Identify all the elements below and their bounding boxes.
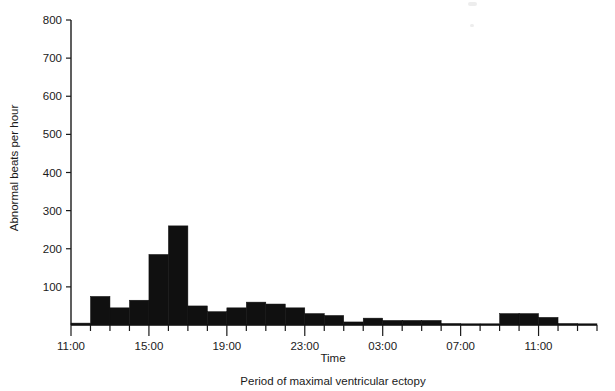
- bar: [578, 324, 597, 325]
- x-tick-label: 19:00: [212, 340, 241, 352]
- bar: [149, 254, 168, 325]
- scan-artifact: [468, 2, 477, 6]
- bar: [461, 324, 480, 325]
- x-tick-label: 07:00: [446, 340, 475, 352]
- bar: [207, 312, 226, 325]
- bar: [188, 306, 207, 325]
- bar: [558, 323, 577, 325]
- bar: [500, 314, 519, 325]
- y-tick-label: 800: [43, 14, 62, 26]
- bar: [324, 315, 343, 325]
- x-axis: 11:0015:0019:0023:0003:0007:0011:00: [57, 325, 597, 352]
- y-tick-label: 100: [43, 281, 62, 293]
- x-tick-label: 23:00: [290, 340, 319, 352]
- bar: [227, 308, 246, 325]
- x-axis-title: Time: [320, 352, 345, 364]
- x-tick-label: 11:00: [57, 340, 85, 352]
- y-tick-label: 400: [43, 167, 62, 179]
- bar: [305, 314, 324, 325]
- bar-series: [71, 226, 597, 325]
- y-tick-label: 700: [43, 52, 62, 64]
- y-tick-label: 600: [43, 90, 62, 102]
- y-axis-title: Abnormal beats per hour: [8, 105, 20, 232]
- bar: [246, 302, 265, 325]
- bar: [402, 320, 421, 325]
- bar: [363, 318, 382, 325]
- bar: [422, 320, 441, 325]
- bar: [168, 226, 187, 325]
- bar: [519, 314, 538, 325]
- figure-container: 100200300400500600700800 11:0015:0019:00…: [0, 0, 615, 391]
- bar: [285, 308, 304, 325]
- x-tick-label: 11:00: [525, 340, 553, 352]
- scan-artifact: [470, 24, 474, 27]
- bar: [90, 296, 109, 325]
- figure-caption: Period of maximal ventricular ectopy: [240, 375, 426, 387]
- bar: [110, 308, 129, 325]
- y-axis: 100200300400500600700800: [43, 14, 71, 325]
- y-tick-label: 200: [43, 243, 62, 255]
- bar: [129, 300, 148, 325]
- bar: [71, 323, 90, 325]
- bar-chart: 100200300400500600700800 11:0015:0019:00…: [0, 0, 615, 391]
- y-tick-label: 500: [43, 128, 62, 140]
- bar: [344, 322, 363, 325]
- bar: [441, 323, 460, 325]
- bar: [480, 324, 499, 325]
- x-tick-label: 15:00: [135, 340, 164, 352]
- x-tick-label: 03:00: [368, 340, 397, 352]
- bar: [266, 304, 285, 325]
- y-tick-label: 300: [43, 205, 62, 217]
- bar: [383, 320, 402, 325]
- bar: [539, 317, 558, 325]
